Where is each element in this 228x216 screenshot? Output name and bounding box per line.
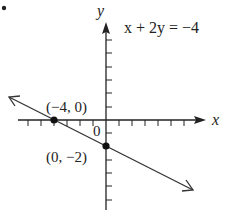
point-label-x-intercept: (−4, 0) [46, 99, 87, 116]
graph: y x x + 2y = −4 (−4, 0) 0 (0, −2) [0, 0, 228, 216]
figure-marker [2, 6, 6, 10]
x-axis [18, 120, 198, 126]
x-axis-label: x [211, 111, 219, 128]
equation-label: x + 2y = −4 [124, 19, 199, 37]
equation-line [9, 96, 193, 191]
origin-label: 0 [93, 123, 101, 139]
point-label-y-intercept: (0, −2) [46, 149, 87, 166]
point-y-intercept [102, 142, 109, 149]
point-x-intercept [50, 116, 57, 123]
y-axis-label: y [95, 2, 105, 20]
